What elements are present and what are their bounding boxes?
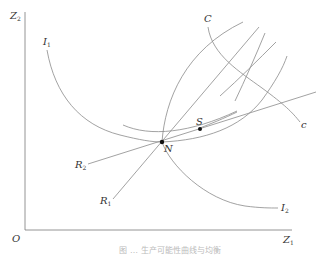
indifference-curve-i2 (162, 142, 278, 208)
contract-curve-end-label: c (301, 120, 307, 130)
r1-label: R1 (100, 196, 111, 207)
figure-caption: 图 … 生产可能性曲线与均衡 (60, 247, 280, 255)
indifference-curve-i1 (47, 50, 162, 142)
contract-curve-start-label: C (204, 14, 212, 24)
frontier-curve-right (162, 56, 287, 142)
isoquant-short-b (235, 33, 265, 101)
r2-label: R2 (75, 160, 86, 171)
contract-curve (208, 27, 300, 122)
i1-label: I1 (43, 37, 51, 48)
indifference-curve-upper (123, 111, 237, 132)
y-axis-label: Z2 (10, 11, 21, 22)
origin-label: O (12, 234, 20, 244)
ray-r1 (113, 27, 259, 199)
ray-r2 (88, 92, 316, 164)
i2-label: I2 (281, 203, 289, 214)
indifference-curve-short-a (220, 42, 276, 96)
x-axis-label: Z1 (283, 235, 294, 246)
point-s-label: S (196, 117, 203, 127)
point-s (198, 127, 202, 131)
point-n-label: N (164, 144, 173, 154)
